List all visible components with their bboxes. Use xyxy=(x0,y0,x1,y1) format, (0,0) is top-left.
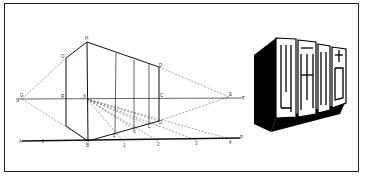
block-letters-text: 四面八方 xyxy=(300,28,304,31)
block-letters-illustration: 四面八方 xyxy=(0,0,367,177)
